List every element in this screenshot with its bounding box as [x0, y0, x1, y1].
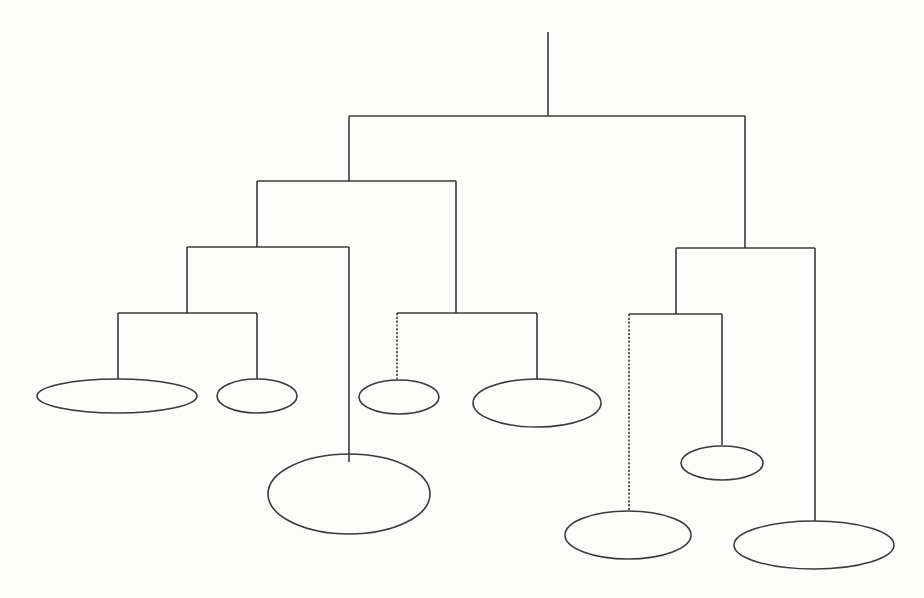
leaf-node-leaf-1 [37, 379, 197, 413]
leaf-node-leaf-8 [734, 521, 894, 569]
leaf-node-leaf-2 [217, 379, 297, 413]
tree-connectors [118, 32, 815, 521]
tree-diagram [0, 0, 924, 598]
tree-leaf-nodes [37, 379, 894, 569]
leaf-node-leaf-3 [359, 380, 439, 414]
leaf-node-leaf-7 [681, 446, 763, 480]
leaf-node-leaf-5 [268, 454, 430, 534]
leaf-node-leaf-6 [565, 511, 691, 559]
leaf-node-leaf-4 [473, 379, 601, 427]
